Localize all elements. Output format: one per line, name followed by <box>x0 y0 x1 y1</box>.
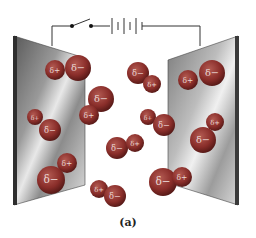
charge-label: δ− <box>132 68 144 78</box>
figure-caption: (a) <box>0 216 256 229</box>
charge-label: δ− <box>71 62 85 73</box>
charge-label: δ+ <box>144 114 153 121</box>
charge-label: δ+ <box>84 111 95 120</box>
charge-label: δ+ <box>210 119 220 127</box>
switch-contact-left <box>70 24 74 28</box>
charge-label: δ− <box>43 173 58 185</box>
charge-label: δ− <box>155 175 170 187</box>
charge-label: δ− <box>196 134 210 145</box>
polar-molecule: δ−δ+ <box>106 134 144 159</box>
right-wire <box>142 26 200 46</box>
charge-label: δ− <box>109 191 121 201</box>
capacitor-diagram: δ+δ−δ−δ+δ−δ+δ+δ−δ+δ−δ+δ−δ+δ−δ−δ+δ+δ−δ−δ+… <box>0 0 256 238</box>
switch-contact-right <box>89 24 93 28</box>
charge-label: δ− <box>44 125 56 135</box>
polar-molecule: δ+δ− <box>90 180 126 207</box>
charge-label: δ− <box>94 93 108 104</box>
charge-label: δ+ <box>147 81 157 89</box>
charge-label: δ+ <box>94 186 104 194</box>
charge-label: δ+ <box>31 114 40 121</box>
charge-label: δ+ <box>183 76 194 85</box>
charge-label: δ+ <box>62 159 73 168</box>
charge-label: δ+ <box>177 173 188 182</box>
left-wire <box>52 26 72 46</box>
battery-icon <box>112 18 142 34</box>
charge-label: δ− <box>158 120 170 130</box>
charge-label: δ+ <box>130 140 140 148</box>
polar-molecule: δ−δ+ <box>127 62 161 93</box>
circuit <box>52 18 200 46</box>
charge-label: δ− <box>111 143 123 153</box>
charge-label: δ+ <box>50 66 61 75</box>
switch-lever[interactable] <box>72 19 90 26</box>
charge-label: δ− <box>205 67 219 78</box>
polar-molecule: δ−δ+ <box>149 167 192 196</box>
